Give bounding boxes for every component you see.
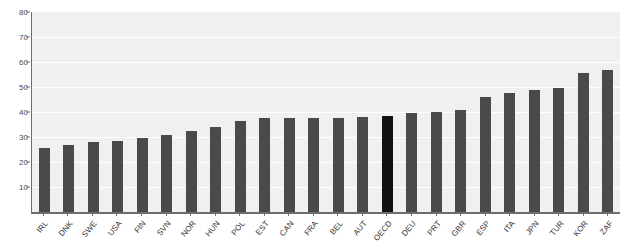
chart-title (0, 0, 626, 7)
bar-chart: 1020304050607080 IRLDNKSWEUSAFINSVNNORHU… (0, 0, 626, 251)
bar-kor (578, 73, 589, 212)
bar-fra (308, 118, 319, 212)
y-axis-tick-label: 20 (0, 158, 28, 167)
x-axis-tick-label-jpn: JPN (524, 219, 541, 237)
bar-jpn (529, 90, 540, 213)
bar-usa (112, 141, 123, 212)
bar-slot-esp (473, 12, 498, 212)
y-axis-tick-label: 10 (0, 183, 28, 192)
bar-irl (39, 148, 50, 212)
x-tick-slot (56, 212, 81, 216)
bar-slot-pol (228, 12, 253, 212)
x-axis-tick-label-dnk: DNK (57, 219, 75, 238)
x-axis-tick (460, 212, 461, 216)
x-tick-slot (326, 212, 351, 216)
x-label-slot: OECD (375, 217, 400, 251)
x-label-slot: EST (252, 217, 277, 251)
bar-slot-gbr (449, 12, 474, 212)
y-axis-tick-label: 60 (0, 58, 28, 67)
bar-slot-swe (81, 12, 106, 212)
x-axis-tick-label-pol: POL (229, 219, 246, 237)
y-axis: 1020304050607080 (0, 0, 28, 251)
x-tick-slot (80, 212, 105, 216)
bar-can (284, 118, 295, 212)
x-tick-slot (546, 212, 571, 216)
x-axis-tick-label-esp: ESP (475, 219, 492, 237)
x-axis-tick (337, 212, 338, 216)
bar-hun (210, 127, 221, 212)
x-axis-tick (215, 212, 216, 216)
x-label-slot: SWE (80, 217, 105, 251)
x-axis-tick (313, 212, 314, 216)
bar-slot-can (277, 12, 302, 212)
bar-slot-jpn (522, 12, 547, 212)
x-label-slot: NOR (178, 217, 203, 251)
x-tick-slot (227, 212, 252, 216)
x-label-slot: GBR (448, 217, 473, 251)
x-axis-tick (534, 212, 535, 216)
x-label-slot: ZAF (596, 217, 621, 251)
x-axis-tick (386, 212, 387, 216)
bar-slot-nor (179, 12, 204, 212)
x-label-slot: PRT (424, 217, 449, 251)
y-axis-tick (26, 12, 30, 13)
x-axis-tick (92, 212, 93, 216)
x-axis-tick-label-usa: USA (106, 219, 124, 238)
x-axis-tick-label-est: EST (254, 219, 271, 237)
x-label-slot: POL (227, 217, 252, 251)
bar-slot-fin (130, 12, 155, 212)
plot-area (31, 12, 620, 212)
x-label-slot: DEU (399, 217, 424, 251)
bar-slot-ita (498, 12, 523, 212)
x-axis-tick-label-hun: HUN (204, 219, 222, 238)
bar-slot-zaf (596, 12, 621, 212)
bar-esp (480, 97, 491, 212)
x-axis-tick-label-aut: AUT (352, 219, 369, 237)
x-axis-labels: IRLDNKSWEUSAFINSVNNORHUNPOLESTCANFRABELA… (31, 217, 620, 251)
bar-slot-kor (571, 12, 596, 212)
bar-slot-dnk (57, 12, 82, 212)
bar-slot-oecd (375, 12, 400, 212)
bar-swe (88, 142, 99, 212)
bar-slot-aut (351, 12, 376, 212)
bar-slot-hun (204, 12, 229, 212)
x-axis-tick (436, 212, 437, 216)
x-tick-slot (154, 212, 179, 216)
bar-zaf (602, 70, 613, 213)
x-axis-tick (190, 212, 191, 216)
x-label-slot: AUT (350, 217, 375, 251)
x-axis-tick-label-oecd: OECD (372, 219, 394, 243)
bar-slot-usa (106, 12, 131, 212)
bar-slot-irl (32, 12, 57, 212)
x-label-slot: DNK (56, 217, 81, 251)
x-axis-tick-label-irl: IRL (35, 219, 50, 235)
bar-slot-prt (424, 12, 449, 212)
bar-tur (553, 88, 564, 212)
x-axis-tick-label-can: CAN (278, 219, 296, 238)
x-axis-tick-label-zaf: ZAF (598, 219, 615, 237)
x-label-slot: ESP (473, 217, 498, 251)
y-axis-tick-label: 80 (0, 8, 28, 17)
bar-bel (333, 118, 344, 212)
bar-ita (504, 93, 515, 212)
x-tick-slot (350, 212, 375, 216)
x-axis-tick-label-bel: BEL (328, 219, 345, 237)
bar-prt (431, 112, 442, 212)
x-axis-tick (362, 212, 363, 216)
x-axis-tick (411, 212, 412, 216)
x-label-slot: FRA (301, 217, 326, 251)
y-axis-tick (26, 137, 30, 138)
bar-dnk (63, 145, 74, 213)
x-axis-tick (43, 212, 44, 216)
y-axis-tick-label: 30 (0, 133, 28, 142)
bar-oecd (382, 116, 393, 212)
x-tick-slot (178, 212, 203, 216)
y-axis-tick (26, 37, 30, 38)
x-tick-slot (596, 212, 621, 216)
bar-slot-bel (326, 12, 351, 212)
x-tick-slot (424, 212, 449, 216)
x-label-slot: CAN (276, 217, 301, 251)
x-axis-tick-label-deu: DEU (400, 219, 418, 238)
x-axis-tick (558, 212, 559, 216)
x-label-slot: ITA (497, 217, 522, 251)
